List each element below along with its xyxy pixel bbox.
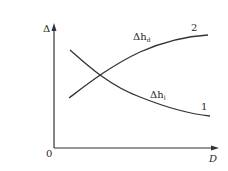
curve-1-number: 1 [201, 102, 207, 112]
y-axis-arrow-icon [52, 23, 57, 31]
x-axis-arrow-icon [211, 146, 219, 151]
curve-2-label: Δhd [133, 32, 151, 43]
diagram: Δ D 0 Δhd 2 Δhl 1 [0, 0, 228, 171]
curve-2-number: 2 [191, 23, 197, 33]
origin-label: 0 [46, 149, 52, 159]
curve-1-label: Δhl [150, 90, 166, 101]
x-axis-label: D [209, 154, 217, 164]
y-axis-label: Δ [43, 24, 50, 34]
curve-1-delta-h-l [70, 50, 210, 116]
